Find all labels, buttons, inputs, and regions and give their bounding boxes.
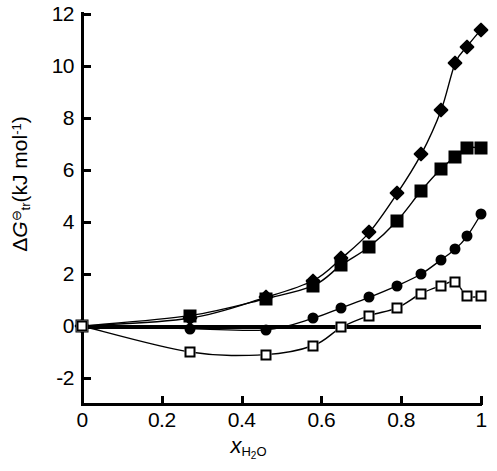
data-point-open-square (77, 321, 88, 332)
x-tick-label: 0.6 (296, 409, 346, 430)
data-point-filled-circle (336, 302, 347, 313)
x-tick-label: 1 (456, 409, 497, 430)
series-line-filled-square (82, 147, 481, 326)
plot-area (82, 14, 481, 378)
data-point-filled-circle (450, 244, 461, 255)
x-tick (81, 396, 84, 405)
data-point-filled-circle (308, 313, 319, 324)
data-point-filled-square (363, 240, 376, 253)
x-tick-label: 0 (57, 409, 107, 430)
series-line-filled-diamond (82, 30, 481, 326)
y-tick-label: 4 (40, 211, 74, 232)
x-axis-title: xH2O (0, 434, 497, 468)
data-point-filled-circle (436, 254, 447, 265)
data-point-filled-square (415, 184, 428, 197)
data-point-filled-circle (476, 209, 487, 220)
data-point-filled-square (335, 258, 348, 271)
x-axis-line (81, 403, 482, 406)
data-point-filled-square (307, 279, 320, 292)
x-tick (320, 396, 323, 405)
x-tick-label: 0.8 (376, 409, 426, 430)
data-point-open-square (260, 349, 271, 360)
data-point-filled-circle (462, 231, 473, 242)
y-tick-label: 2 (40, 263, 74, 284)
data-point-filled-circle (364, 292, 375, 303)
data-point-open-square (336, 322, 347, 333)
data-point-open-square (308, 340, 319, 351)
data-point-open-square (364, 310, 375, 321)
y-axis-title: ΔG⊖tr(kJ mol-1) (5, 69, 37, 299)
data-point-open-square (416, 288, 427, 299)
x-tick-label: 0.4 (217, 409, 267, 430)
data-point-open-square (462, 291, 473, 302)
x-tick-label: 0.2 (137, 409, 187, 430)
x-tick (400, 396, 403, 405)
data-point-filled-circle (416, 269, 427, 280)
y-tick-label: 10 (40, 55, 74, 76)
y-tick-label: 0 (40, 315, 74, 336)
y-tick-label: -2 (40, 367, 74, 388)
data-point-filled-square (435, 162, 448, 175)
data-point-open-square (392, 302, 403, 313)
x-axis-title-symbol: x (230, 433, 241, 458)
x-tick (161, 396, 164, 405)
data-point-filled-square (475, 141, 488, 154)
data-point-filled-square (259, 292, 272, 305)
data-point-open-square (436, 280, 447, 291)
chart-figure: -2024681012 00.20.40.60.81 ΔG⊖tr(kJ mol-… (0, 0, 497, 471)
data-point-filled-circle (260, 324, 271, 335)
y-tick-label: 12 (40, 3, 74, 24)
y-tick-label: 6 (40, 159, 74, 180)
data-point-filled-square (391, 214, 404, 227)
data-point-filled-circle (392, 280, 403, 291)
data-point-filled-circle (184, 323, 195, 334)
x-tick (241, 396, 244, 405)
y-axis-title-text: ΔG⊖tr(kJ mol-1) (8, 116, 31, 252)
data-point-open-square (476, 291, 487, 302)
data-point-open-square (184, 347, 195, 358)
x-tick (480, 396, 483, 405)
y-tick-label: 8 (40, 107, 74, 128)
data-point-filled-square (461, 141, 474, 154)
data-point-open-square (450, 276, 461, 287)
data-point-filled-square (183, 309, 196, 322)
